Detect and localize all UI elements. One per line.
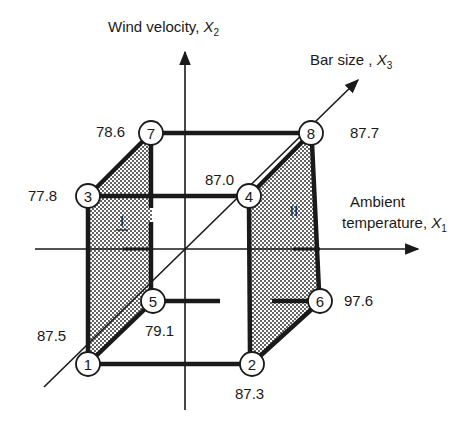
svg-text:7: 7 [147,125,155,142]
face-label-II: II [290,202,298,219]
value-node-1: 87.5 [37,327,66,344]
svg-text:5: 5 [149,293,157,310]
svg-text:temperature, X1: temperature, X1 [342,214,447,234]
node-8: 8 [299,121,323,145]
node-1: 1 [76,352,100,376]
value-node-6: 97.6 [344,292,373,309]
svg-text:2: 2 [248,356,256,373]
svg-text:4: 4 [245,188,253,205]
x1-axis-label: Ambient temperature, X1 [342,193,447,234]
value-node-4: 87.0 [205,171,234,188]
svg-text:Bar size , X3: Bar size , X3 [310,51,393,71]
node-6: 6 [308,289,332,313]
value-node-5: 79.1 [145,322,174,339]
svg-text:1: 1 [84,356,92,373]
svg-text:6: 6 [316,293,324,310]
value-node-2: 87.3 [235,385,264,402]
node-4: 4 [237,184,261,208]
node-7: 7 [139,121,163,145]
svg-text:Wind velocity, X2: Wind velocity, X2 [108,18,220,38]
svg-text:Ambient: Ambient [350,193,406,210]
node-2: 2 [240,352,264,376]
node-3: 3 [76,184,100,208]
value-node-7: 78.6 [96,123,125,140]
node-5: 5 [141,289,165,313]
value-node-8: 87.7 [350,124,379,141]
value-node-3: 77.8 [28,187,57,204]
x3-axis-label: Bar size , X3 [310,51,393,71]
svg-text:I: I [120,212,124,229]
svg-text:3: 3 [84,188,92,205]
svg-text:8: 8 [307,125,315,142]
x2-axis-label: Wind velocity, X2 [108,18,220,38]
cube-diagram: 1 2 3 4 5 6 7 8 87.5 87.3 77.8 87.0 79.1… [0,0,474,433]
